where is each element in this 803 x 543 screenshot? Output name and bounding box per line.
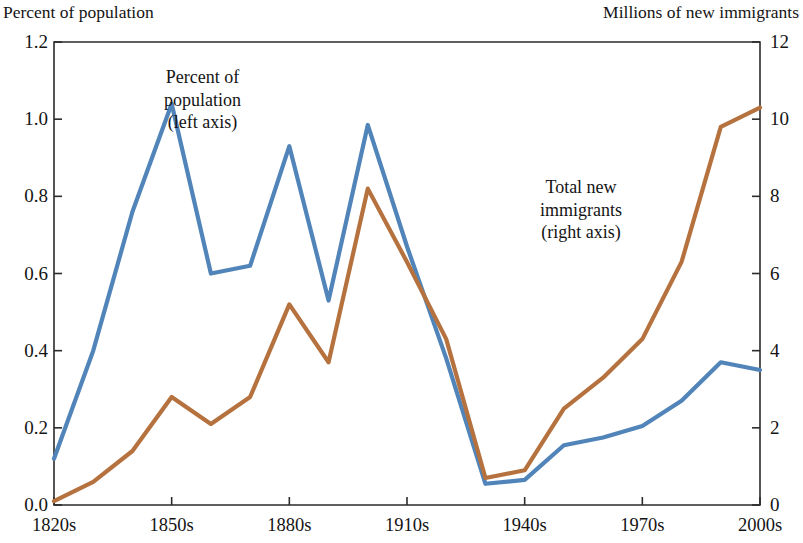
x-axis-label: 1970s [597, 516, 687, 535]
y-axis-label-left: 1.0 [2, 109, 48, 128]
y-axis-label-right: 0 [770, 495, 803, 514]
y-axis-label-right: 4 [770, 341, 803, 360]
y-axis-label-left: 0.0 [2, 495, 48, 514]
y-axis-label-left: 0.6 [2, 264, 48, 283]
series-line-total-new-immigrants [54, 108, 760, 502]
x-axis-label: 1850s [127, 516, 217, 535]
annotation-line: (left axis) [164, 111, 241, 134]
annotation-line: immigrants [540, 199, 622, 222]
x-axis-label: 1820s [9, 516, 99, 535]
annotation-line: Percent of [164, 66, 241, 89]
y-axis-label-right: 6 [770, 264, 803, 283]
series-line-percent-of-population [54, 104, 760, 484]
annotation-line: (right axis) [540, 221, 622, 244]
plot-frame-box [54, 42, 760, 505]
annotation-line: Total new [540, 176, 622, 199]
y-axis-label-right: 10 [770, 109, 803, 128]
y-axis-label-left: 1.2 [2, 32, 48, 51]
plot-frame [54, 42, 760, 505]
annotation-line: population [164, 89, 241, 112]
x-axis-label: 2000s [715, 516, 803, 535]
annotation-total-new-immigrants: Total new immigrants (right axis) [540, 176, 622, 244]
y-axis-label-right: 8 [770, 186, 803, 205]
x-axis-label: 1880s [244, 516, 334, 535]
left-axis-caption: Percent of population [3, 2, 154, 22]
right-axis-caption: Millions of new immigrants [603, 2, 799, 22]
y-axis-label-right: 12 [770, 32, 803, 51]
y-axis-label-left: 0.4 [2, 341, 48, 360]
x-axis-label: 1940s [480, 516, 570, 535]
plot-area [0, 0, 803, 543]
y-axis-label-left: 0.8 [2, 186, 48, 205]
immigration-chart-figure: Percent of population Millions of new im… [0, 0, 803, 543]
annotation-percent-of-population: Percent of population (left axis) [164, 66, 241, 134]
data-series-lines [54, 104, 760, 501]
x-axis-label: 1910s [362, 516, 452, 535]
y-axis-label-right: 2 [770, 418, 803, 437]
axis-ticks [54, 42, 760, 505]
y-axis-label-left: 0.2 [2, 418, 48, 437]
